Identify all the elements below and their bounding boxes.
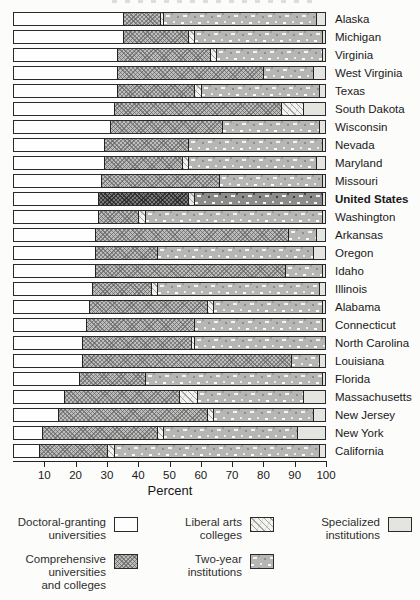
segment-comprehensive xyxy=(101,175,219,187)
segment-two_year xyxy=(194,337,325,349)
segment-two_year xyxy=(213,409,313,421)
stacked-bar xyxy=(13,264,326,278)
axis-tick-label: 80 xyxy=(246,469,280,481)
segment-two_year xyxy=(145,373,322,385)
segment-comprehensive xyxy=(39,445,107,457)
segment-two_year xyxy=(222,121,318,133)
stacked-bar xyxy=(13,408,326,422)
stacked-bar xyxy=(13,210,326,224)
segment-comprehensive xyxy=(117,67,263,79)
stacked-bar xyxy=(13,156,326,170)
stacked-bar xyxy=(13,282,326,296)
segment-comprehensive xyxy=(95,229,288,241)
segment-liberal_arts xyxy=(281,103,303,115)
segment-doctoral xyxy=(14,49,117,61)
segment-comprehensive xyxy=(98,193,188,205)
bar-row: California xyxy=(13,444,412,458)
stacked-bar xyxy=(13,174,326,188)
bar-row: Idaho xyxy=(13,264,412,278)
segment-comprehensive xyxy=(104,157,182,169)
axis-tick xyxy=(138,462,139,467)
bar-row: Illinois xyxy=(13,282,412,296)
stacked-bar xyxy=(13,138,326,152)
segment-doctoral xyxy=(14,445,39,457)
stacked-bar xyxy=(13,66,326,80)
segment-specialized xyxy=(316,157,325,169)
segment-doctoral xyxy=(14,211,98,223)
segment-comprehensive xyxy=(82,337,191,349)
axis-tick-label: 40 xyxy=(121,469,155,481)
segment-comprehensive xyxy=(58,409,207,421)
segment-specialized xyxy=(322,373,325,385)
segment-two_year xyxy=(188,157,316,169)
segment-comprehensive xyxy=(86,319,195,331)
segment-specialized xyxy=(322,265,325,277)
segment-doctoral xyxy=(14,31,123,43)
segment-two_year xyxy=(291,355,319,367)
segment-two_year xyxy=(285,265,322,277)
segment-two_year xyxy=(194,193,322,205)
legend-label: Specialized institutions xyxy=(286,516,380,542)
stacked-bar xyxy=(13,228,326,242)
segment-specialized xyxy=(322,49,325,61)
bar-row: Massachusetts xyxy=(13,390,412,404)
segment-comprehensive xyxy=(104,139,188,151)
stacked-bar xyxy=(13,246,326,260)
axis-tick-label: 100 xyxy=(309,469,343,481)
segment-specialized xyxy=(322,31,325,43)
segment-doctoral xyxy=(14,67,117,79)
legend-label: Doctoral-granting universities xyxy=(8,516,106,542)
legend-label: Liberal arts colleges xyxy=(148,516,242,542)
segment-specialized xyxy=(313,247,325,259)
axis-tick-label: 60 xyxy=(184,469,218,481)
bar-row: Oregon xyxy=(13,246,412,260)
state-label: North Carolina xyxy=(335,337,409,349)
state-label: Missouri xyxy=(335,175,378,187)
state-label: Washington xyxy=(335,211,395,223)
axis-tick-label: 20 xyxy=(59,469,93,481)
segment-specialized xyxy=(313,409,325,421)
state-label: Alabama xyxy=(335,301,380,313)
segment-doctoral xyxy=(14,121,110,133)
state-label: Nevada xyxy=(335,139,375,151)
cropped-title-remnant xyxy=(112,0,318,3)
bar-row: West Virginia xyxy=(13,66,412,80)
segment-doctoral xyxy=(14,103,114,115)
state-label: Alaska xyxy=(335,13,370,25)
state-label: Maryland xyxy=(335,157,382,169)
segment-doctoral xyxy=(14,265,95,277)
segment-specialized xyxy=(313,67,325,79)
axis-tick xyxy=(326,462,327,467)
segment-doctoral xyxy=(14,391,64,403)
axis-tick-label: 30 xyxy=(90,469,124,481)
stacked-bar xyxy=(13,390,326,404)
state-label: Wisconsin xyxy=(335,121,387,133)
bar-row: Missouri xyxy=(13,174,412,188)
segment-specialized xyxy=(322,211,325,223)
segment-specialized xyxy=(322,139,325,151)
segment-doctoral xyxy=(14,409,58,421)
segment-specialized xyxy=(297,427,325,439)
legend-swatch-comprehensive xyxy=(114,554,138,569)
segment-doctoral xyxy=(14,427,42,439)
segment-doctoral xyxy=(14,175,101,187)
axis-tick-label: 70 xyxy=(215,469,249,481)
state-label: South Dakota xyxy=(335,103,405,115)
state-label: Arkansas xyxy=(335,229,383,241)
segment-specialized xyxy=(319,121,325,133)
bar-row: South Dakota xyxy=(13,102,412,116)
stacked-bar xyxy=(13,30,326,44)
segment-doctoral xyxy=(14,229,95,241)
bar-row: Nevada xyxy=(13,138,412,152)
stacked-bar xyxy=(13,300,326,314)
segment-comprehensive xyxy=(114,103,282,115)
segment-comprehensive xyxy=(64,391,179,403)
legend-item-two_year: Two-year institutions xyxy=(148,553,274,579)
segment-doctoral xyxy=(14,373,79,385)
segment-comprehensive xyxy=(98,211,138,223)
segment-specialized xyxy=(322,319,325,331)
segment-doctoral xyxy=(14,319,86,331)
axis-tick-label: 50 xyxy=(153,469,187,481)
segment-specialized xyxy=(319,445,325,457)
segment-two_year xyxy=(263,67,313,79)
